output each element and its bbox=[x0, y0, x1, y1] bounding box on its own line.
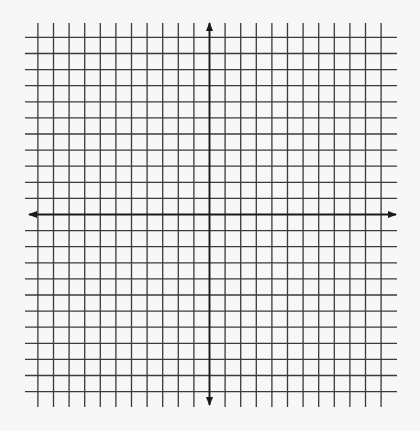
coordinate-plane bbox=[0, 0, 420, 431]
